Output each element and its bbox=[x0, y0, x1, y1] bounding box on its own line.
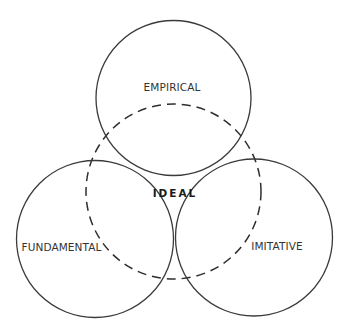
ideal-label: IDEAL bbox=[153, 187, 198, 199]
fundamental-circle bbox=[17, 161, 174, 318]
imitative-label: IMITATIVE bbox=[251, 240, 302, 252]
fundamental-label: FUNDAMENTAL bbox=[22, 241, 102, 253]
venn-diagram: EMPIRICAL IDEAL FUNDAMENTAL IMITATIVE bbox=[0, 0, 346, 333]
imitative-circle bbox=[176, 159, 333, 316]
empirical-label: EMPIRICAL bbox=[144, 81, 201, 93]
empirical-circle bbox=[96, 21, 251, 176]
